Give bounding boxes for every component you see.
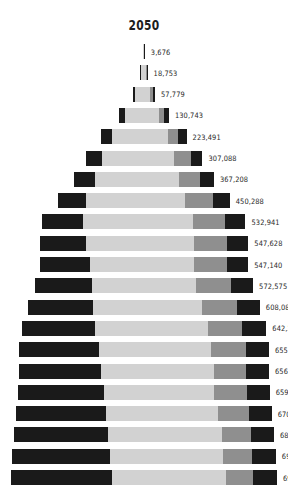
bar-segment-mid-gray — [168, 129, 178, 144]
bar-value-label: 3,676 — [151, 47, 171, 56]
bar-segment-light-middle — [90, 257, 194, 272]
bar-segment-mid-gray — [179, 172, 200, 187]
bar-segment-mid-gray — [194, 257, 227, 272]
pyramid-row: 656,443 — [0, 364, 288, 379]
bar-segment-mid-gray — [214, 385, 247, 400]
pyramid-bar[interactable] — [18, 385, 269, 400]
bar-segment-mid-gray — [202, 300, 237, 315]
bar-segment-dark-right — [191, 151, 203, 166]
bar-value-label: 670,303 — [278, 409, 288, 418]
pyramid-bar[interactable] — [40, 257, 248, 272]
bar-segment-dark-left — [58, 193, 85, 208]
pyramid-bar[interactable] — [14, 427, 274, 442]
pyramid-row: 608,082 — [0, 300, 288, 315]
bar-segment-dark-left — [18, 385, 103, 400]
pyramid-row: 547,628 — [0, 236, 288, 251]
pyramid-bar[interactable] — [11, 470, 277, 485]
bar-segment-light-middle — [110, 449, 223, 464]
bar-segment-light-middle — [112, 129, 168, 144]
bar-value-label: 642,222 — [272, 324, 288, 333]
pyramid-bar[interactable] — [101, 129, 186, 144]
pyramid-bar[interactable] — [74, 172, 214, 187]
pyramid-bar[interactable] — [119, 108, 169, 123]
bar-value-label: 547,140 — [254, 260, 282, 269]
pyramid-row: 642,222 — [0, 321, 288, 336]
bar-segment-mid-gray — [174, 151, 190, 166]
pyramid-row: 18,753 — [0, 65, 288, 80]
pyramid-row: 130,743 — [0, 108, 288, 123]
pyramid-row: 57,779 — [0, 87, 288, 102]
bar-segment-light-middle — [86, 236, 194, 251]
bar-segment-dark-left — [14, 427, 108, 442]
pyramid-bar[interactable] — [19, 364, 269, 379]
bar-segment-mid-gray — [214, 364, 247, 379]
bar-segment-dark-right — [247, 385, 270, 400]
bar-segment-dark-right — [249, 406, 272, 421]
pyramid-bar[interactable] — [143, 44, 145, 59]
bar-value-label: 692,165 — [282, 452, 288, 461]
bar-segment-light-middle — [95, 321, 208, 336]
bar-value-label: 655,950 — [275, 345, 288, 354]
bar-value-label: 547,628 — [254, 239, 282, 248]
bar-segment-dark-right — [252, 449, 276, 464]
pyramid-bar[interactable] — [133, 87, 155, 102]
bar-segment-light-middle — [106, 406, 218, 421]
bar-segment-light-middle — [135, 87, 150, 102]
bar-segment-mid-gray — [196, 278, 231, 293]
bar-segment-dark-right — [237, 300, 260, 315]
pyramid-bar[interactable] — [40, 236, 249, 251]
bar-segment-mid-gray — [208, 321, 242, 336]
bar-segment-dark-right — [251, 427, 274, 442]
bar-value-label: 450,288 — [236, 196, 264, 205]
pyramid-bar[interactable] — [58, 193, 230, 208]
bar-segment-dark-right — [213, 193, 230, 208]
bar-value-label: 307,088 — [208, 154, 236, 163]
bar-segment-mid-gray — [222, 427, 251, 442]
pyramid-bar[interactable] — [28, 300, 260, 315]
bar-value-label: 682,424 — [280, 430, 288, 439]
bar-segment-dark-right — [253, 470, 277, 485]
pyramid-row: 692,165 — [0, 449, 288, 464]
bar-value-label: 659,946 — [276, 388, 288, 397]
pyramid-row: 698,304 — [0, 470, 288, 485]
bar-segment-dark-right — [227, 257, 248, 272]
bar-segment-light-middle — [125, 108, 160, 123]
pyramid-bar[interactable] — [140, 65, 147, 80]
pyramid-row: 670,303 — [0, 406, 288, 421]
bar-segment-mid-gray — [218, 406, 249, 421]
bar-segment-light-middle — [83, 214, 193, 229]
pyramid-row: 367,208 — [0, 172, 288, 187]
bar-segment-dark-right — [231, 278, 253, 293]
bar-segment-light-middle — [112, 470, 226, 485]
bar-segment-dark-right — [246, 342, 268, 357]
pyramid-bar[interactable] — [16, 406, 271, 421]
bar-segment-dark-left — [19, 342, 99, 357]
pyramid-bar[interactable] — [42, 214, 245, 229]
pyramid-row: 572,575 — [0, 278, 288, 293]
bar-segment-dark-left — [40, 236, 86, 251]
bar-value-label: 18,753 — [154, 68, 178, 77]
bar-segment-dark-right — [178, 129, 187, 144]
bar-segment-light-middle — [101, 364, 214, 379]
pyramid-bar[interactable] — [35, 278, 253, 293]
bar-segment-light-middle — [102, 151, 175, 166]
bar-value-label: 57,779 — [161, 90, 185, 99]
population-pyramid-chart: 2050 3,67618,75357,779130,743223,491307,… — [0, 0, 288, 502]
bar-segment-mid-gray — [226, 470, 253, 485]
pyramid-row: 307,088 — [0, 151, 288, 166]
pyramid-row: 3,676 — [0, 44, 288, 59]
pyramid-row: 532,941 — [0, 214, 288, 229]
bar-segment-dark-left — [12, 449, 110, 464]
pyramid-bar[interactable] — [22, 321, 267, 336]
bar-segment-dark-left — [40, 257, 90, 272]
pyramid-bar[interactable] — [19, 342, 269, 357]
bar-value-label: 223,491 — [193, 132, 221, 141]
bar-segment-dark-right — [147, 65, 148, 80]
bar-segment-dark-left — [16, 406, 105, 421]
bar-segment-dark-right — [246, 364, 269, 379]
pyramid-bar[interactable] — [86, 151, 203, 166]
pyramid-row: 547,140 — [0, 257, 288, 272]
bar-segment-light-middle — [104, 385, 215, 400]
pyramid-bar[interactable] — [12, 449, 276, 464]
bar-segment-dark-right — [153, 87, 155, 102]
